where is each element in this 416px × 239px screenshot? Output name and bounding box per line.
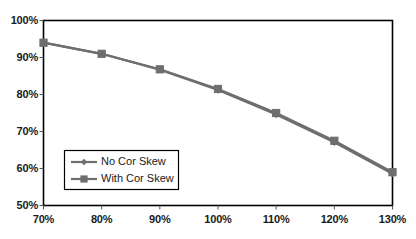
x-tick-label: 80% [79, 213, 125, 225]
chart-plot-area [0, 0, 416, 239]
x-tick-label: 90% [137, 213, 183, 225]
y-tick-label: 80% [0, 88, 38, 100]
x-tick-label: 100% [195, 213, 241, 225]
legend-item-label: With Cor Skew [101, 172, 174, 184]
plot-border [44, 21, 393, 206]
y-tick-label: 90% [0, 51, 38, 63]
square-marker [214, 85, 221, 92]
x-tick-label: 120% [311, 213, 357, 225]
x-tick-label: 130% [370, 213, 416, 225]
y-tick-label: 100% [0, 14, 38, 26]
square-marker [40, 39, 47, 46]
square-marker [389, 169, 396, 176]
square-marker [273, 109, 280, 116]
x-tick-label: 110% [253, 213, 299, 225]
legend-item-label: No Cor Skew [101, 155, 166, 167]
x-tick-label: 70% [21, 213, 67, 225]
y-tick-label: 60% [0, 162, 38, 174]
square-marker [98, 50, 105, 57]
y-tick-label: 70% [0, 125, 38, 137]
square-marker [331, 137, 338, 144]
y-tick-label: 50% [0, 199, 38, 211]
chart-container: 50%60%70%80%90%100% 70%80%90%100%110%120… [0, 0, 416, 239]
square-marker [156, 66, 163, 73]
